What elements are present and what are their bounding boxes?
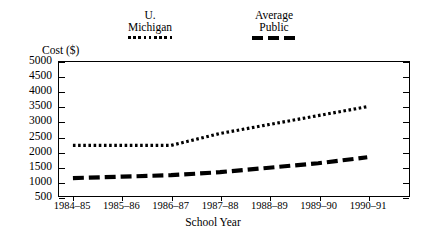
y-axis-tick-label: 2000: [29, 146, 52, 158]
y-axis-tick-right: [403, 77, 409, 78]
series-line-u-michigan: [73, 107, 367, 146]
x-axis-tick-label: 1987–88: [202, 200, 239, 211]
chart-legend: U. Michigan Average Public: [0, 4, 426, 48]
y-axis-tick-left: [59, 92, 65, 93]
y-axis-tick-right: [403, 183, 409, 184]
legend-label-line1: Average: [228, 10, 320, 22]
x-axis-tick-labels: 1984–851985–861986–871987–881988–891989–…: [0, 200, 426, 216]
y-axis-tick-right: [403, 168, 409, 169]
y-axis-tick-label: 5000: [29, 55, 52, 67]
x-axis-tick-label: 1990–91: [350, 200, 387, 211]
y-axis-tick-right: [403, 138, 409, 139]
x-axis-tick-label: 1988–89: [251, 200, 288, 211]
y-axis-tick-label: 3500: [29, 100, 52, 112]
x-axis-tick-label: 1986–87: [152, 200, 189, 211]
y-axis-tick-left: [59, 138, 65, 139]
y-axis-tick-label: 1500: [29, 161, 52, 173]
y-axis-tick-left: [59, 168, 65, 169]
legend-entry-u-michigan: U. Michigan: [108, 10, 192, 39]
legend-label-line1: U.: [108, 10, 192, 22]
dashed-line-swatch-icon: [252, 36, 296, 40]
y-axis-tick-label: 4000: [29, 85, 52, 97]
y-axis-tick-right: [403, 92, 409, 93]
y-axis-tick-right: [403, 198, 409, 199]
y-axis-tick-left: [59, 122, 65, 123]
y-axis-tick-right: [403, 62, 409, 63]
y-axis-tick-left: [59, 183, 65, 184]
legend-label-line2: Michigan: [108, 22, 192, 34]
series-line-average-public: [73, 157, 367, 178]
y-axis-tick-right: [403, 107, 409, 108]
y-axis-tick-label: 3000: [29, 115, 52, 127]
y-axis-tick-left: [59, 62, 65, 63]
y-axis-tick-left: [59, 77, 65, 78]
x-axis-title: School Year: [0, 216, 426, 228]
y-axis-tick-label: 1000: [29, 176, 52, 188]
y-axis-tick-label: 4500: [29, 70, 52, 82]
y-axis-tick-right: [403, 153, 409, 154]
legend-entry-average-public: Average Public: [228, 10, 320, 40]
y-axis-tick-left: [59, 198, 65, 199]
x-axis-tick-label: 1984–85: [54, 200, 91, 211]
y-axis-tick-left: [59, 107, 65, 108]
y-axis-tick-left: [59, 153, 65, 154]
data-series-layer: [59, 62, 409, 196]
y-axis-tick-label: 2500: [29, 131, 52, 143]
x-axis-tick-label: 1989–90: [300, 200, 337, 211]
plot-area: [58, 61, 410, 197]
x-axis-tick-label: 1985–86: [103, 200, 140, 211]
y-axis-tick-right: [403, 122, 409, 123]
cost-line-chart: U. Michigan Average Public Cost ($) 5001…: [0, 0, 426, 239]
legend-label-line2: Public: [228, 22, 320, 34]
y-axis-tick-labels: 500100015002000250030003500400045005000: [0, 61, 55, 197]
dotted-line-swatch-icon: [128, 36, 172, 39]
plot-inner: [59, 62, 409, 196]
